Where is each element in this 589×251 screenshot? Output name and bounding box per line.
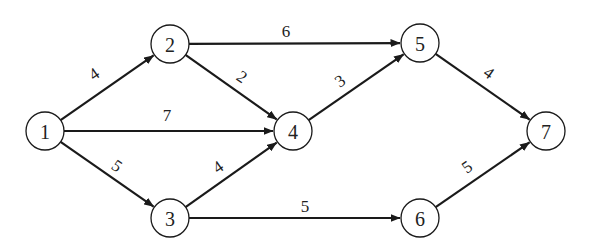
edge-1-4: 7 (64, 106, 273, 132)
node-label: 1 (40, 121, 50, 143)
node-4: 4 (274, 112, 312, 150)
edge-weight-label: 5 (301, 197, 310, 216)
edge-weight-label: 2 (233, 67, 251, 87)
arrow-line (189, 43, 400, 44)
arrow-line (186, 55, 277, 119)
node-2: 2 (151, 25, 189, 63)
edge-1-2: 4 (61, 55, 154, 120)
edge-3-6: 5 (189, 197, 400, 219)
arrow-line (309, 54, 404, 120)
edge-weight-label: 7 (163, 106, 172, 125)
arrow-line (61, 142, 154, 207)
node-label: 6 (415, 208, 425, 230)
edge-1-3: 5 (61, 142, 154, 207)
edge-3-4: 4 (186, 143, 277, 207)
arrow-line (436, 142, 530, 207)
edge-weight-label: 5 (458, 157, 476, 177)
node-3: 3 (151, 199, 189, 237)
node-7: 7 (527, 112, 565, 150)
edge-5-7: 4 (436, 54, 530, 120)
network-diagram: 4756245345 1234567 (0, 0, 589, 251)
edge-2-4: 2 (186, 55, 277, 119)
edge-weight-label: 4 (480, 63, 498, 84)
node-label: 5 (415, 33, 425, 55)
node-label: 2 (165, 34, 175, 56)
edge-weight-label: 4 (85, 63, 103, 84)
arrow-line (436, 54, 530, 120)
edge-2-5: 6 (189, 22, 400, 44)
edge-4-5: 3 (309, 54, 404, 120)
node-5: 5 (401, 24, 439, 62)
edge-weight-label: 5 (108, 156, 126, 176)
node-label: 7 (541, 121, 551, 143)
edge-weight-label: 3 (331, 71, 349, 91)
edge-weight-label: 4 (209, 156, 227, 177)
edge-weight-label: 6 (282, 22, 291, 41)
edge-6-7: 5 (436, 142, 530, 207)
node-label: 4 (288, 121, 298, 143)
arrow-line (61, 55, 154, 120)
arrow-line (186, 143, 277, 207)
node-label: 3 (165, 208, 175, 230)
node-1: 1 (26, 112, 64, 150)
node-6: 6 (401, 199, 439, 237)
